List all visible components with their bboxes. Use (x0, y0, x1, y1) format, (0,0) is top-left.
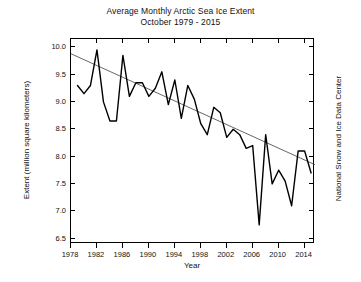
y-tick-mark-right (309, 74, 314, 75)
y-tick-label: 8.0 (30, 151, 66, 160)
chart-title-line2: October 1979 - 2015 (0, 17, 361, 28)
x-tick-label: 2014 (287, 250, 321, 259)
chart-title-line1: Average Monthly Arctic Sea Ice Extent (0, 6, 361, 17)
chart-figure: Average Monthly Arctic Sea Ice Extent Oc… (0, 0, 361, 282)
x-tick-mark-top (70, 38, 71, 43)
chart-canvas (71, 39, 315, 244)
x-tick-mark (304, 243, 305, 248)
x-tick-mark-top (304, 38, 305, 43)
x-tick-mark (70, 243, 71, 248)
y-tick-label: 9.5 (30, 69, 66, 78)
x-tick-mark-top (148, 38, 149, 43)
y-tick-mark (70, 128, 75, 129)
data-series-line (77, 50, 311, 225)
x-axis-label: Year (70, 261, 314, 270)
x-tick-mark (226, 243, 227, 248)
y-tick-mark (70, 74, 75, 75)
y-tick-label: 9.0 (30, 96, 66, 105)
x-tick-mark (252, 243, 253, 248)
x-tick-mark-top (122, 38, 123, 43)
credit-text: National Snow and Ice Data Center (334, 39, 343, 239)
y-tick-mark-right (309, 238, 314, 239)
trend-line (71, 54, 315, 165)
y-tick-mark (70, 101, 75, 102)
y-tick-mark (70, 46, 75, 47)
chart-title: Average Monthly Arctic Sea Ice Extent Oc… (0, 6, 361, 27)
x-tick-mark (200, 243, 201, 248)
y-tick-mark (70, 210, 75, 211)
y-tick-label: 8.5 (30, 124, 66, 133)
x-tick-mark-top (200, 38, 201, 43)
x-tick-mark (122, 243, 123, 248)
x-tick-mark (278, 243, 279, 248)
y-tick-mark-right (309, 210, 314, 211)
y-tick-mark-right (309, 156, 314, 157)
y-tick-mark (70, 183, 75, 184)
x-tick-mark (148, 243, 149, 248)
y-tick-mark-right (309, 183, 314, 184)
x-tick-mark-top (278, 38, 279, 43)
y-tick-mark (70, 238, 75, 239)
x-tick-mark-top (226, 38, 227, 43)
x-tick-mark-top (174, 38, 175, 43)
x-tick-mark-top (252, 38, 253, 43)
y-tick-label: 7.5 (30, 178, 66, 187)
plot-area (70, 38, 314, 243)
y-tick-label: 10.0 (30, 42, 66, 51)
y-tick-mark-right (309, 101, 314, 102)
y-tick-mark-right (309, 128, 314, 129)
y-tick-mark-right (309, 46, 314, 47)
y-tick-mark (70, 156, 75, 157)
x-tick-mark-top (96, 38, 97, 43)
y-tick-label: 7.0 (30, 206, 66, 215)
y-tick-label: 6.5 (30, 233, 66, 242)
x-tick-mark (174, 243, 175, 248)
x-tick-mark (96, 243, 97, 248)
